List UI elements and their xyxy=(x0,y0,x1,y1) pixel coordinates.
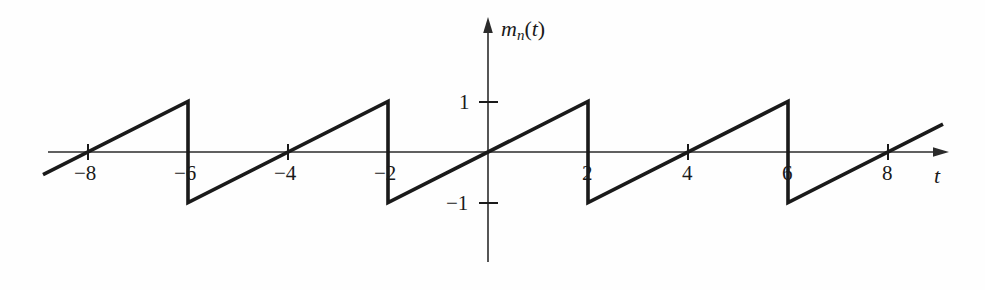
x-tick-label-2: 2 xyxy=(582,163,593,184)
x-tick-label-minus-2: −2 xyxy=(374,163,396,184)
plot-canvas xyxy=(0,0,985,290)
y-axis-label-argument-variable: t xyxy=(532,16,538,41)
y-axis xyxy=(483,17,493,262)
x-tick-label-4: 4 xyxy=(682,163,693,184)
x-tick-label-minus-4: −4 xyxy=(274,163,296,184)
x-tick-label-6: 6 xyxy=(782,163,793,184)
y-axis-label-argument: (t) xyxy=(524,16,545,41)
x-tick-label-8: 8 xyxy=(882,163,893,184)
y-axis-label: mn(t) xyxy=(501,18,545,43)
y-tick-label-1: 1 xyxy=(459,92,470,113)
y-axis-label-base: m xyxy=(501,16,517,41)
x-axis-label: t xyxy=(934,165,940,187)
x-tick-label-minus-8: −8 xyxy=(74,163,96,184)
sawtooth-waveform-figure: −8 −6 −4 −2 2 4 6 8 1 −1 mn(t) t xyxy=(0,0,985,290)
x-tick-label-minus-6: −6 xyxy=(174,163,196,184)
y-tick-label-minus-1: −1 xyxy=(446,193,468,214)
